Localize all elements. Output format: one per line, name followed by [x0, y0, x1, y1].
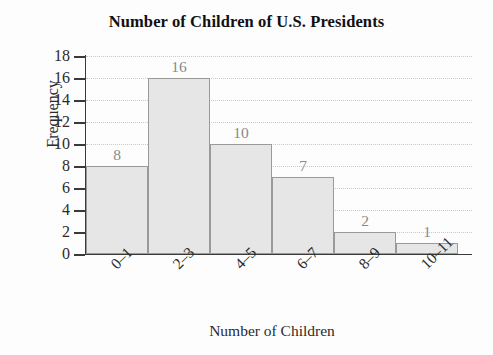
- bar: [86, 166, 148, 254]
- y-axis-tick-label: 8: [38, 158, 70, 174]
- gridline: [86, 56, 472, 57]
- gridline: [86, 122, 472, 123]
- gridline: [86, 78, 472, 79]
- bar-value-label: 8: [86, 147, 148, 163]
- x-axis-title: Number of Children: [86, 322, 458, 340]
- y-axis-tick: [74, 122, 85, 124]
- y-axis-tick-label: 14: [38, 92, 70, 108]
- y-axis-tick: [74, 232, 85, 234]
- page-title: Number of Children of U.S. Presidents: [0, 12, 493, 32]
- y-axis-tick-label: 2: [38, 224, 70, 240]
- y-axis-tick-label: 10: [38, 136, 70, 152]
- bar: [148, 78, 210, 254]
- y-axis-tick-label: 6: [38, 180, 70, 196]
- bar-value-label: 2: [334, 213, 396, 229]
- y-axis-tick: [74, 144, 85, 146]
- bar-value-label: 7: [272, 158, 334, 174]
- gridline: [86, 144, 472, 145]
- y-axis-tick: [74, 56, 85, 58]
- bar-value-label: 16: [148, 59, 210, 75]
- chart-figure: Number of Children of U.S. Presidents Fr…: [0, 0, 493, 355]
- bar: [210, 144, 272, 254]
- y-axis-tick: [74, 254, 85, 256]
- y-axis-tick: [74, 188, 85, 190]
- y-axis-tick-label: 12: [38, 114, 70, 130]
- y-axis-tick-label: 18: [38, 48, 70, 64]
- y-axis-tick-label: 16: [38, 70, 70, 86]
- y-axis-tick: [74, 100, 85, 102]
- bar-value-label: 10: [210, 125, 272, 141]
- y-axis-tick-label: 4: [38, 202, 70, 218]
- y-axis-tick: [74, 166, 85, 168]
- y-axis-tick: [74, 210, 85, 212]
- y-axis-tick-label: 0: [38, 246, 70, 262]
- plot-area: 81610721: [86, 56, 458, 254]
- x-axis-line: [85, 254, 472, 255]
- gridline: [86, 100, 472, 101]
- bar: [272, 177, 334, 254]
- y-axis-tick: [74, 78, 85, 80]
